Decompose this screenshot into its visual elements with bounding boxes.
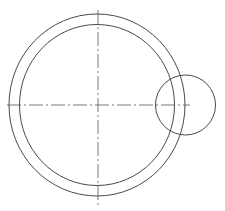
diagram-canvas xyxy=(0,0,225,211)
